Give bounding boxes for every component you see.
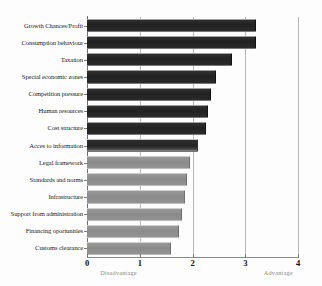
bar-row [87,88,211,101]
y-tick-3 [84,77,87,78]
y-tick-7 [84,146,87,147]
gridline-4 [298,17,299,257]
bar-3 [87,70,216,83]
category-label-13: Customs clearance [0,244,83,252]
bar-row [87,19,256,32]
category-label-6: Cost structure [0,124,83,132]
bar-8 [87,156,190,169]
bar-row [87,36,256,49]
category-label-3: Special economic zones [0,73,83,81]
axis-annotations: DisadvantageAdvantage [0,269,322,281]
y-tick-8 [84,163,87,164]
bar-row [87,208,182,221]
x-tick-mark-4 [298,254,299,258]
bar-4 [87,88,211,101]
category-label-4: Competition pressure [0,90,83,98]
x-tick-mark-3 [245,254,246,258]
bar-9 [87,173,187,186]
category-label-11: Support from administration [0,210,83,218]
category-label-7: Acces to information [0,142,83,150]
bar-rows [87,17,298,257]
x-tick-label-1: 1 [138,258,142,268]
x-tick-mark-1 [140,254,141,258]
y-tick-4 [84,94,87,95]
y-tick-9 [84,180,87,181]
category-label-8: Legal framework [0,159,83,167]
bar-11 [87,208,182,221]
bar-row [87,173,187,186]
chart-title-strip [0,0,322,12]
bar-6 [87,122,206,135]
bar-row [87,225,179,238]
x-tick-mark-2 [193,254,194,258]
category-label-12: Financing oportunities [0,227,83,235]
bar-row [87,190,185,203]
axis-annotation-advantage: Advantage [264,269,293,276]
x-tick-mark-0 [87,254,88,258]
category-label-1: Consumption behaviour [0,39,83,47]
category-label-5: Human resources [0,107,83,115]
bar-10 [87,190,185,203]
bar-row [87,105,208,118]
bar-1 [87,36,256,49]
bar-2 [87,53,232,66]
y-tick-1 [84,43,87,44]
category-label-9: Standards and norms [0,176,83,184]
bar-7 [87,139,198,152]
bar-row [87,70,216,83]
bar-row [87,242,171,255]
y-tick-12 [84,231,87,232]
bar-12 [87,225,179,238]
category-label-10: Infrastructure [0,193,83,201]
bar-5 [87,105,208,118]
bar-0 [87,19,256,32]
x-tick-label-3: 3 [243,258,247,268]
bar-row [87,139,198,152]
bar-row [87,53,232,66]
category-label-2: Taxation [0,56,83,64]
bar-chart: Growth Chances/ProfitConsumption behavio… [0,0,322,286]
category-label-0: Growth Chances/Profit [0,22,83,30]
y-tick-5 [84,111,87,112]
bar-13 [87,242,171,255]
x-tick-label-2: 2 [190,258,194,268]
bar-row [87,156,190,169]
axis-annotation-disadvantage: Disadvantage [100,269,137,276]
plot-area [87,17,298,257]
y-tick-10 [84,197,87,198]
y-tick-2 [84,60,87,61]
bar-row [87,122,206,135]
x-tick-label-0: 0 [85,258,89,268]
y-tick-0 [84,26,87,27]
y-tick-6 [84,128,87,129]
x-tick-label-4: 4 [296,258,300,268]
y-tick-11 [84,214,87,215]
y-tick-13 [84,248,87,249]
